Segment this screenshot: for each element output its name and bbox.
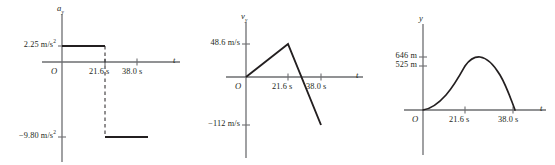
y-tick-label-neg-9-80-text: −9.80 m/s (19, 131, 53, 140)
y-axis-label-text: y (419, 13, 423, 23)
y-tick-label-neg-112: −112 m/s (208, 120, 240, 128)
x-tick-label-21-6: 21.6 s (272, 83, 292, 91)
y-axis-label: vy (241, 12, 247, 21)
x-axis-label: t (540, 104, 543, 113)
y-tick-label-525-text: 525 m (396, 60, 417, 69)
y-tick-label-2-25-exp: 2 (53, 38, 56, 44)
chart-panel-acceleration: ay t O 2.25 m/s2 −9.80 m/s2 21.6 s 38.0 … (0, 0, 185, 165)
x-tick-label-21-6: 21.6 s (89, 68, 109, 76)
y-tick-label-525: 525 m (396, 61, 417, 69)
origin-label: O (412, 115, 418, 124)
x-axis-label: t (173, 56, 176, 65)
y-axis-label: y (419, 14, 423, 23)
x-tick-label-38-0: 38.0 s (122, 68, 142, 76)
y-tick-label-2-25-text: 2.25 m/s (24, 40, 53, 49)
y-axis-label-sub: y (61, 9, 63, 15)
origin-label: O (235, 82, 241, 91)
position-plot-svg (370, 0, 555, 165)
y-tick-label-neg-112-text: −112 m/s (208, 119, 240, 128)
y-tick-label-2-25: 2.25 m/s2 (24, 41, 56, 49)
chart-panel-velocity: vy t O 48.6 m/s −112 m/s 21.6 s 38.0 s (185, 0, 370, 165)
y-axis-label: ay (57, 4, 64, 13)
x-tick-label-38-0: 38.0 s (306, 83, 326, 91)
series-position (423, 57, 515, 110)
y-tick-label-48-6-text: 48.6 m/s (211, 38, 240, 47)
x-tick-label-38-0: 38.0 s (498, 116, 518, 124)
chart-panel-position: y t O 646 m 525 m 21.6 s 38.0 s (370, 0, 555, 165)
y-tick-label-646-text: 646 m (396, 51, 417, 60)
y-tick-label-48-6: 48.6 m/s (211, 39, 240, 47)
y-tick-label-neg-9-80: −9.80 m/s2 (19, 132, 56, 140)
kinematics-figure: ay t O 2.25 m/s2 −9.80 m/s2 21.6 s 38.0 … (0, 0, 555, 165)
x-tick-label-21-6: 21.6 s (449, 116, 469, 124)
x-axis-label: t (356, 71, 359, 80)
origin-label: O (51, 67, 57, 76)
y-axis-label-sub: y (245, 17, 247, 23)
y-tick-label-neg-9-80-exp: 2 (53, 129, 56, 135)
